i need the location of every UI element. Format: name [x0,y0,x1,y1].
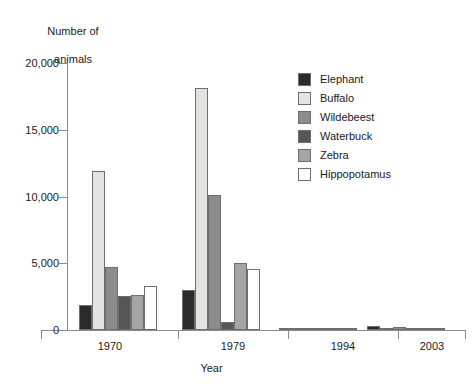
legend-item-elephant[interactable]: Elephant [298,70,391,89]
x-axis-group-tick [288,330,289,339]
bar-buffalo-2003 [380,328,393,330]
legend-item-hippopotamus[interactable]: Hippopotamus [298,165,391,184]
legend-swatch-buffalo [298,92,311,105]
bar-waterbuck-1994 [318,328,331,330]
x-axis-label-1979: 1979 [193,340,273,352]
x-axis-group-tick [398,330,399,339]
legend-label-hippopotamus: Hippopotamus [320,168,391,181]
y-axis-tick-label: 5,000 [7,258,59,269]
bar-wildebeest-1979 [208,195,221,330]
y-axis-tick [59,330,67,331]
x-axis-line [41,330,465,331]
legend-swatch-wildebeest [298,111,311,124]
legend-item-wildebeest[interactable]: Wildebeest [298,108,391,127]
x-axis-label-1994: 1994 [303,340,383,352]
y-axis-tick-label: 0 [7,325,59,336]
bar-chart: Number of animals 05,00010,00015,00020,0… [0,0,473,384]
legend-item-waterbuck[interactable]: Waterbuck [298,127,391,146]
legend-label-waterbuck: Waterbuck [320,130,372,143]
bar-hippopotamus-1994 [344,328,357,330]
bar-buffalo-1994 [292,328,305,330]
x-axis-title: Year [0,362,473,374]
bar-waterbuck-2003 [406,328,419,330]
legend-swatch-elephant [298,73,311,86]
y-axis-tick [59,63,67,64]
bar-hippopotamus-1970 [144,286,157,330]
y-axis-tick [59,197,67,198]
legend-label-buffalo: Buffalo [320,92,354,105]
y-axis-tick [59,263,67,264]
bar-zebra-2003 [419,328,432,330]
y-axis-tick-label: 20,000 [7,58,59,69]
bar-zebra-1979 [234,263,247,330]
x-axis-title-text: Year [200,362,222,374]
bar-buffalo-1970 [92,171,105,330]
legend-item-buffalo[interactable]: Buffalo [298,89,391,108]
legend-label-wildebeest: Wildebeest [320,111,374,124]
bar-waterbuck-1970 [118,296,131,330]
y-axis-tick [59,130,67,131]
y-axis-tick-label: 15,000 [7,125,59,136]
legend-label-elephant: Elephant [320,73,363,86]
bar-buffalo-1979 [195,88,208,330]
legend-swatch-zebra [298,149,311,162]
x-axis-group-tick [178,330,179,339]
bar-zebra-1994 [331,328,344,330]
y-axis-tick-label: 10,000 [7,192,59,203]
bar-waterbuck-1979 [221,322,234,330]
bar-hippopotamus-2003 [432,328,445,330]
legend-label-zebra: Zebra [320,149,349,162]
legend-swatch-hippopotamus [298,168,311,181]
bar-elephant-1979 [182,290,195,330]
x-axis-group-tick [465,330,466,339]
bar-elephant-1970 [79,305,92,330]
bar-zebra-1970 [131,295,144,330]
bar-hippopotamus-1979 [247,269,260,330]
x-axis-label-1970: 1970 [70,340,150,352]
plot-area [67,63,465,330]
bar-wildebeest-1994 [305,328,318,330]
bar-wildebeest-2003 [393,327,406,330]
legend-item-zebra[interactable]: Zebra [298,146,391,165]
x-axis-group-tick [41,330,42,339]
legend: ElephantBuffaloWildebeestWaterbuckZebraH… [298,70,391,184]
bar-elephant-1994 [279,328,292,330]
legend-swatch-waterbuck [298,130,311,143]
y-axis-title-line1: Number of [18,24,128,38]
x-axis-label-2003: 2003 [392,340,472,352]
bar-elephant-2003 [367,326,380,330]
bar-wildebeest-1970 [105,267,118,330]
